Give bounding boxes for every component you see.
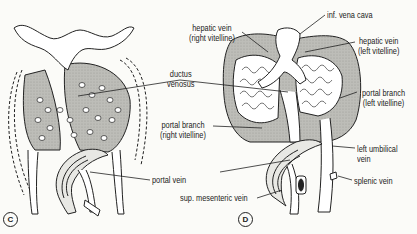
label-inf-vena-cava: inf. vena cava (327, 10, 373, 20)
label-left-umbilical-vein: left umbilical vein (357, 144, 398, 164)
label-line: (left vitelline) (358, 46, 399, 56)
label-line: portal branch (362, 88, 405, 98)
label-line: (right vitelline) (160, 130, 206, 140)
label-line: (left vitelline) (362, 98, 405, 108)
label-sup-mesenteric-vein: sup. mesenteric vein (180, 193, 248, 203)
panel-label-c: C (3, 212, 18, 227)
label-line: left umbilical (357, 144, 398, 154)
label-line: hepatic vein (189, 23, 235, 33)
label-line: venosus (167, 79, 194, 89)
label-portal-branch-right: portal branch (right vitelline) (160, 120, 206, 140)
label-splenic-vein: splenic vein (354, 176, 393, 186)
label-hepatic-vein-left: hepatic vein (left vitelline) (358, 36, 399, 56)
label-portal-vein: portal vein (152, 175, 186, 185)
label-line: portal branch (160, 120, 206, 130)
panel-c-drawing (9, 25, 147, 216)
label-hepatic-vein-right: hepatic vein (right vitelline) (189, 23, 235, 43)
label-ductus-venosus: ductus venosus (167, 69, 194, 89)
label-line: (right vitelline) (189, 33, 235, 43)
label-portal-branch-left: portal branch (left vitelline) (362, 88, 405, 108)
label-line: ductus (167, 69, 194, 79)
panel-d-drawing (223, 28, 360, 214)
label-line: vein (357, 154, 398, 164)
label-line: hepatic vein (358, 36, 399, 46)
panel-label-d: D (238, 212, 253, 227)
